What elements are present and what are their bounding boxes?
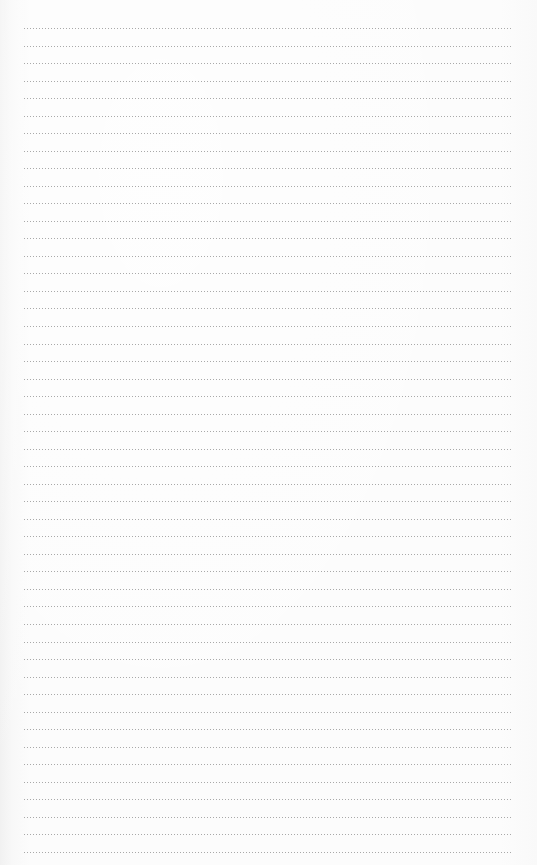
dotted-rule-line — [24, 116, 512, 117]
dotted-rule-line — [24, 694, 512, 695]
dotted-rule-line — [24, 186, 512, 187]
dotted-rule-line — [24, 256, 512, 257]
dotted-rule-line — [24, 308, 512, 309]
dotted-rule-line — [24, 63, 512, 64]
dotted-rule-line — [24, 133, 512, 134]
dotted-rule-line — [24, 817, 512, 818]
dotted-rule-line — [24, 729, 512, 730]
dotted-rule-line — [24, 624, 512, 625]
dotted-rule-line — [24, 28, 512, 29]
dotted-rule-line — [24, 484, 512, 485]
dotted-rule-line — [24, 519, 512, 520]
dotted-rule-line — [24, 344, 512, 345]
dotted-rule-line — [24, 659, 512, 660]
dotted-rule-line — [24, 291, 512, 292]
dotted-rule-line — [24, 326, 512, 327]
dotted-rule-line — [24, 46, 512, 47]
dotted-rule-line — [24, 466, 512, 467]
dotted-rule-line — [24, 151, 512, 152]
dotted-rule-line — [24, 414, 512, 415]
dotted-rule-line — [24, 571, 512, 572]
dotted-rule-line — [24, 449, 512, 450]
dotted-rule-line — [24, 203, 512, 204]
dotted-rule-line — [24, 536, 512, 537]
dotted-rule-line — [24, 799, 512, 800]
dotted-rule-line — [24, 782, 512, 783]
dotted-rule-line — [24, 554, 512, 555]
dotted-rule-line — [24, 764, 512, 765]
dotted-rule-line — [24, 642, 512, 643]
dotted-rule-line — [24, 168, 512, 169]
dotted-rule-line — [24, 589, 512, 590]
dotted-rule-line — [24, 747, 512, 748]
dotted-rule-line — [24, 431, 512, 432]
dotted-rule-line — [24, 221, 512, 222]
dotted-rule-line — [24, 396, 512, 397]
dotted-rule-line — [24, 852, 512, 853]
lined-paper-sheet — [0, 0, 537, 865]
dotted-rule-line — [24, 606, 512, 607]
dotted-rule-line — [24, 834, 512, 835]
dotted-rule-line — [24, 238, 512, 239]
dotted-rule-line — [24, 81, 512, 82]
dotted-rule-line — [24, 501, 512, 502]
dotted-rule-line — [24, 677, 512, 678]
dotted-rule-line — [24, 712, 512, 713]
dotted-rule-line — [24, 379, 512, 380]
dotted-rule-line — [24, 273, 512, 274]
dotted-rule-line — [24, 98, 512, 99]
dotted-rule-line — [24, 361, 512, 362]
